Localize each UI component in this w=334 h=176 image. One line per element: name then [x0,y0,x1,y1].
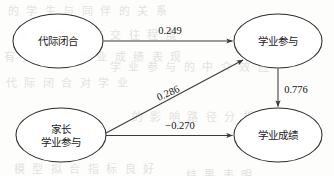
node-intergenerational-closure[interactable] [13,14,103,68]
path-diagram-canvas: 的 学 生 与 同 伴 的 关 系 家 长 之 间 的 交 往 程 度 有 更 … [0,0,334,176]
node-parental-involvement[interactable] [16,108,106,162]
node-academic-achievement[interactable] [234,108,322,162]
node-academic-engagement[interactable] [234,14,322,68]
edge-involvement-to-engagement [106,60,243,133]
diagram-svg [0,0,334,176]
